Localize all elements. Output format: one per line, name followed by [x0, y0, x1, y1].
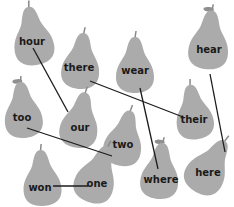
pear-hour[interactable] [8, 0, 57, 68]
pear-word-their: their [180, 114, 207, 125]
pear-stem-icon [28, 0, 30, 7]
pear-word-won: won [28, 182, 51, 193]
pear-body-icon [187, 9, 232, 71]
pear-body-icon [60, 31, 103, 90]
pear-word-wear: wear [121, 65, 149, 76]
pear-won[interactable] [21, 143, 62, 207]
pear-their[interactable] [171, 76, 216, 141]
pear-stem-icon [135, 31, 136, 38]
pear-body-icon [21, 149, 62, 207]
pear-stem-icon [189, 79, 191, 86]
pear-wear[interactable] [116, 31, 154, 93]
pear-where[interactable] [139, 135, 182, 200]
pear-word-one: one [87, 178, 108, 189]
pear-body-icon [171, 82, 216, 142]
pear-word-hour: hour [19, 36, 45, 47]
pear-body-icon [139, 141, 182, 200]
pear-body-icon [1, 80, 44, 139]
match-line-wear-where [140, 88, 158, 169]
pear-there[interactable] [60, 25, 103, 90]
match-line-hear-here [210, 74, 225, 152]
pear-word-where: where [144, 174, 179, 185]
pear-too[interactable] [1, 74, 44, 139]
pear-word-too: too [13, 112, 32, 123]
pear-word-our: our [71, 122, 90, 133]
pear-hear[interactable] [187, 3, 232, 71]
pear-word-there: there [64, 62, 95, 73]
pear-word-here: here [195, 167, 221, 178]
pear-matching-canvas: hourtherewearheartooourtwotheirwononewhe… [0, 0, 234, 207]
pear-body-icon [57, 89, 104, 151]
pear-word-hear: hear [196, 44, 222, 55]
pear-stem-icon [40, 144, 41, 151]
pear-word-two: two [113, 139, 134, 150]
